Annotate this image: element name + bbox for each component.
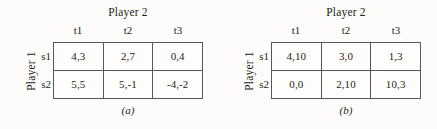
payoff-cell-s1-t3: 1,3: [370, 43, 420, 70]
column-header-t3: t3: [153, 24, 203, 37]
row-header-column: s1 s2: [254, 42, 269, 99]
column-header-row: t1 t2 t3: [53, 24, 203, 37]
row-player-label-text: Player 1: [242, 51, 254, 91]
table-row: 4,3 2,7 0,4: [54, 43, 202, 70]
column-header-t3: t3: [371, 24, 421, 37]
column-player-label: Player 2: [271, 6, 421, 19]
payoff-matrix-grid: 4,10 3,0 1,3 0,0 2,10 10,3: [271, 42, 421, 99]
row-header-column: s1 s2: [36, 42, 51, 99]
payoff-matrix-panel-a: Player 2 t1 t2 t3 Player 1 s1 s2 4,3 2,7…: [0, 0, 219, 129]
game-payoff-matrices-figure: Player 2 t1 t2 t3 Player 1 s1 s2 4,3 2,7…: [0, 0, 437, 129]
payoff-matrix-panel-b: Player 2 t1 t2 t3 Player 1 s1 s2 4,10 3,…: [218, 0, 437, 129]
column-header-t2: t2: [103, 24, 153, 37]
table-row: 4,10 3,0 1,3: [272, 43, 420, 70]
payoff-cell-s2-t2: 5,-1: [103, 71, 153, 98]
row-player-label-text: Player 1: [24, 51, 36, 91]
payoff-cell-s2-t1: 5,5: [54, 71, 103, 98]
payoff-cell-s2-t2: 2,10: [321, 71, 371, 98]
payoff-cell-s2-t1: 0,0: [272, 71, 321, 98]
table-row: 5,5 5,-1 -4,-2: [54, 70, 202, 98]
payoff-cell-s1-t2: 2,7: [103, 43, 153, 70]
row-header-s1: s1: [254, 42, 269, 71]
panel-caption: (b): [271, 104, 421, 117]
payoff-cell-s2-t3: -4,-2: [152, 71, 202, 98]
payoff-matrix-grid: 4,3 2,7 0,4 5,5 5,-1 -4,-2: [53, 42, 203, 99]
column-header-row: t1 t2 t3: [271, 24, 421, 37]
payoff-cell-s2-t3: 10,3: [370, 71, 420, 98]
panel-caption: (a): [53, 104, 203, 117]
column-header-t2: t2: [321, 24, 371, 37]
column-header-t1: t1: [53, 24, 103, 37]
table-row: 0,0 2,10 10,3: [272, 70, 420, 98]
column-player-label: Player 2: [53, 6, 203, 19]
column-header-t1: t1: [271, 24, 321, 37]
payoff-cell-s1-t2: 3,0: [321, 43, 371, 70]
payoff-cell-s1-t1: 4,10: [272, 43, 321, 70]
payoff-cell-s1-t3: 0,4: [152, 43, 202, 70]
row-header-s2: s2: [254, 71, 269, 100]
row-header-s1: s1: [36, 42, 51, 71]
payoff-cell-s1-t1: 4,3: [54, 43, 103, 70]
row-header-s2: s2: [36, 71, 51, 100]
